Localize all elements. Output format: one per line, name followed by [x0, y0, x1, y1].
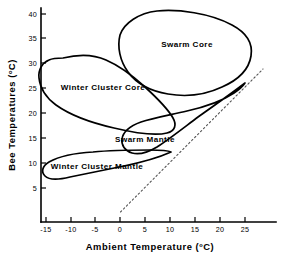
- x-tick-label-10: 10: [166, 225, 175, 234]
- y-axis-title-end: C): [6, 59, 17, 70]
- label-swarm-mantle: Swarm Mantle: [115, 135, 175, 144]
- y-tick-label-5: 5: [33, 184, 37, 193]
- y-tick-label-10: 10: [28, 159, 37, 168]
- x-tick-label-25: 25: [241, 225, 250, 234]
- x-tick-label--10: -10: [65, 225, 76, 234]
- y-axis-title: Bee Temperatures (oC): [6, 59, 17, 171]
- y-tick-label-30: 30: [28, 59, 37, 68]
- label-winter-cluster-mantle: Winter Cluster Mantle: [51, 162, 144, 171]
- label-swarm-core: Swarm Core: [161, 40, 213, 49]
- y-axis-title-main: Bee Temperatures (: [6, 74, 17, 171]
- chart-canvas: 40 35 30 25 20 15 10 5 -15 -10 -5 0: [0, 0, 282, 263]
- x-axis-title-end: C): [203, 241, 214, 252]
- x-tick-label-5: 5: [143, 225, 147, 234]
- x-axis-title-main: Ambient Temperature (: [86, 241, 200, 252]
- x-tick-label--5: -5: [92, 225, 99, 234]
- region-winter-cluster-core: [39, 56, 175, 135]
- y-tick-label-20: 20: [28, 109, 37, 118]
- x-tick-label--15: -15: [40, 225, 51, 234]
- y-tick-label-40: 40: [28, 10, 37, 19]
- bee-temperature-chart: 40 35 30 25 20 15 10 5 -15 -10 -5 0: [0, 0, 282, 263]
- y-tick-label-15: 15: [28, 134, 37, 143]
- label-winter-cluster-core: Winter Cluster Core: [61, 83, 146, 92]
- x-tick-label-20: 20: [216, 225, 225, 234]
- x-tick-label-0: 0: [118, 225, 122, 234]
- x-axis-title: Ambient Temperature (oC): [86, 241, 214, 252]
- y-tick-label-35: 35: [28, 34, 37, 43]
- y-axis-tick-labels: 40 35 30 25 20 15 10 5: [28, 10, 37, 193]
- x-tick-label-15: 15: [191, 225, 200, 234]
- x-axis-tick-labels: -15 -10 -5 0 5 10 15 20 25: [40, 225, 249, 234]
- y-tick-label-25: 25: [28, 84, 37, 93]
